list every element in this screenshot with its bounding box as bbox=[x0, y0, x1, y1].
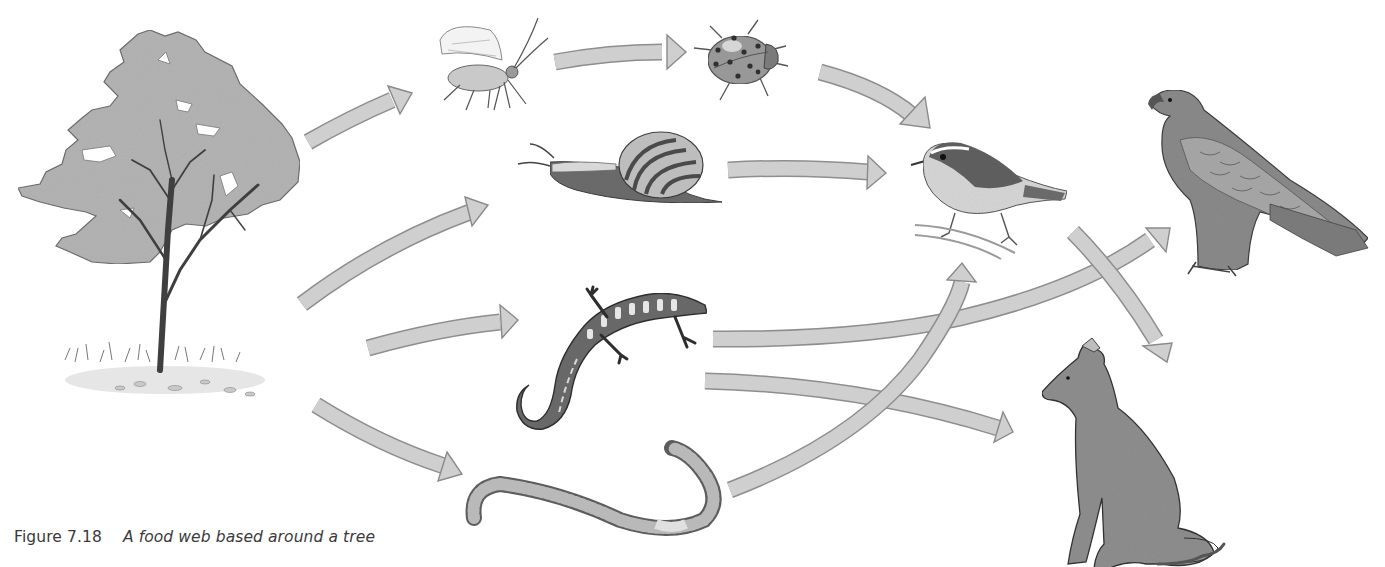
aphid-illustration bbox=[440, 18, 548, 110]
arrows bbox=[302, 35, 1172, 490]
ladybird-illustration bbox=[694, 20, 788, 100]
arrow-tree-to-aphid bbox=[308, 86, 412, 142]
arrow-snail-to-bird bbox=[728, 156, 886, 189]
food-web-diagram: Tree Aphid Ladybird Snail Salamander Ear… bbox=[0, 0, 1385, 567]
arrow-ladybird-to-bird bbox=[820, 72, 930, 128]
arrow-tree-to-earthworm bbox=[316, 405, 462, 481]
arrow-tree-to-snail bbox=[302, 197, 488, 304]
snail-illustration bbox=[518, 132, 722, 203]
arrow-tree-to-salamander bbox=[368, 305, 518, 348]
bird-illustration bbox=[911, 142, 1067, 259]
tree-illustration bbox=[18, 30, 300, 396]
arrow-aphid-to-ladybird bbox=[555, 35, 686, 69]
figure-number: Figure 7.18 bbox=[14, 528, 102, 546]
eagle-illustration bbox=[1148, 90, 1368, 276]
earthworm-illustration bbox=[474, 448, 714, 528]
dog-illustration bbox=[1042, 338, 1224, 567]
figure-title: A food web based around a tree bbox=[123, 528, 375, 546]
figure-caption: Figure 7.18 A food web based around a tr… bbox=[14, 528, 375, 546]
salamander-illustration bbox=[517, 287, 707, 429]
